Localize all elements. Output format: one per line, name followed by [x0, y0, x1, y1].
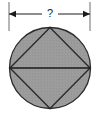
geometry-figure: ? [0, 0, 99, 116]
figure-canvas: ? [0, 0, 99, 116]
dimension-label: ? [47, 7, 53, 19]
